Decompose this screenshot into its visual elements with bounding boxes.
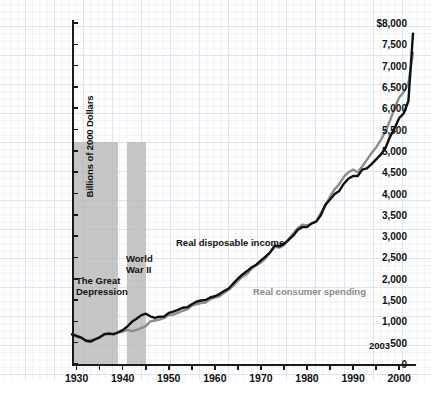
x-tick-mark [76,364,78,370]
x-tick-mark [306,364,308,370]
x-tick-label: 1970 [249,372,272,384]
x-tick-mark [99,364,101,370]
y-tick-label: 4,500 [382,167,407,178]
y-tick-mark [72,257,78,259]
x-tick-label: 1990 [341,372,364,384]
y-tick-mark [72,193,78,195]
x-tick-mark [145,364,147,370]
x-tick-label: 1980 [295,372,318,384]
y-tick-label: 1,000 [382,316,407,327]
y-tick-mark [72,22,78,24]
y-tick-mark [72,171,78,173]
chart-figure: $8,0007,5007,0006,5006,0005,5005,0004,50… [0,0,431,399]
y-tick-label: 4,000 [382,188,407,199]
y-tick-mark [72,342,78,344]
end-year-label: 2003 [369,341,390,352]
y-tick-label: 5,500 [382,124,407,135]
y-tick-mark [72,129,78,131]
y-tick-label: 5,000 [382,145,407,156]
x-tick-mark [352,364,354,370]
x-tick-label: 1960 [203,372,226,384]
y-tick-mark [72,299,78,301]
x-tick-mark [375,364,377,370]
great-depression-label: The Great Depression [76,276,128,297]
x-tick-mark [329,364,331,370]
y-tick-label: 7,000 [382,60,407,71]
y-tick-mark [72,150,78,152]
x-axis-line [72,364,416,366]
x-tick-label: 1930 [65,372,88,384]
x-tick-label: 2000 [387,372,410,384]
x-tick-mark [398,364,400,370]
y-tick-mark [72,214,78,216]
y-tick-label: 1,500 [382,295,407,306]
y-tick-mark [72,235,78,237]
y-tick-label: 0 [401,359,407,370]
y-tick-label: 500 [390,337,407,348]
y-tick-mark [72,86,78,88]
world-war-ii-label: World War II [126,254,153,275]
y-tick-label: 2,500 [382,252,407,263]
series-lines [72,23,413,364]
plot-area: $8,0007,5007,0006,5006,0005,5005,0004,50… [72,23,413,364]
x-tick-mark [214,364,216,370]
x-tick-mark [260,364,262,370]
income-label: Real disposable income [176,238,284,249]
x-tick-mark [191,364,193,370]
y-tick-label: 7,500 [382,39,407,50]
y-tick-mark [72,65,78,67]
x-tick-mark [122,364,124,370]
y-tick-label: 3,500 [382,209,407,220]
x-tick-label: 1950 [157,372,180,384]
y-tick-label: 6,000 [382,103,407,114]
y-tick-mark [72,321,78,323]
x-tick-mark [168,364,170,370]
x-tick-label: 1940 [111,372,134,384]
y-tick-label: $8,000 [376,18,407,29]
x-tick-mark [283,364,285,370]
y-axis-title: Billions of 2000 Dollars [84,62,95,232]
y-tick-label: 6,500 [382,81,407,92]
y-tick-mark [72,44,78,46]
x-tick-mark [237,364,239,370]
y-tick-mark [72,107,78,109]
spending-label: Real consumer spending [253,287,366,298]
y-tick-label: 3,000 [382,231,407,242]
y-tick-label: 2,000 [382,273,407,284]
